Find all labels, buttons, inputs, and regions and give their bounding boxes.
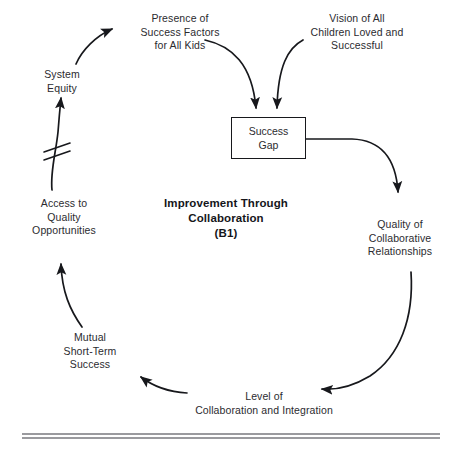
footer-rule-top-line [22,433,440,435]
link-mutual-to-access [61,264,82,327]
node-vision-of-all-children: Vision of All Children Loved and Success… [297,12,417,53]
node-system-equity: System Equity [30,68,94,95]
footer-rule-bottom-line [22,437,440,439]
node-success-gap: Success Gap [231,117,306,159]
link-level-to-mutual [141,377,187,393]
node-access-to-quality-opportunities: Access to Quality Opportunities [14,197,114,238]
node-mutual-short-term-success: Mutual Short-Term Success [48,331,132,372]
node-presence-of-success-factors: Presence of Success Factors for All Kids [134,12,226,53]
node-level-of-collaboration-and-integration: Level of Collaboration and Integration [189,390,339,417]
node-quality-of-collaborative-relationships: Quality of Collaborative Relationships [350,218,450,259]
link-system-equity-to-presence [76,29,112,64]
link-success-gap-to-quality [306,139,398,192]
link-quality-to-level [322,272,411,389]
causal-loop-diagram: Presence of Success Factors for All Kids… [0,0,456,449]
link-access-to-system-equity [52,98,61,190]
diagram-title: Improvement Through Collaboration (B1) [141,196,311,241]
